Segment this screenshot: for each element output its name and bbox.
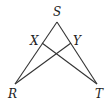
label-Y: Y [73,34,82,48]
segment-XT [42,43,97,84]
label-R: R [7,87,17,101]
label-X: X [29,34,39,48]
geometry-diagram: S X Y R T [0,0,110,110]
label-T: T [95,87,104,101]
label-S: S [53,5,61,19]
segment-ST [57,22,97,84]
segment-SR [15,22,57,84]
segment-YR [15,43,71,84]
